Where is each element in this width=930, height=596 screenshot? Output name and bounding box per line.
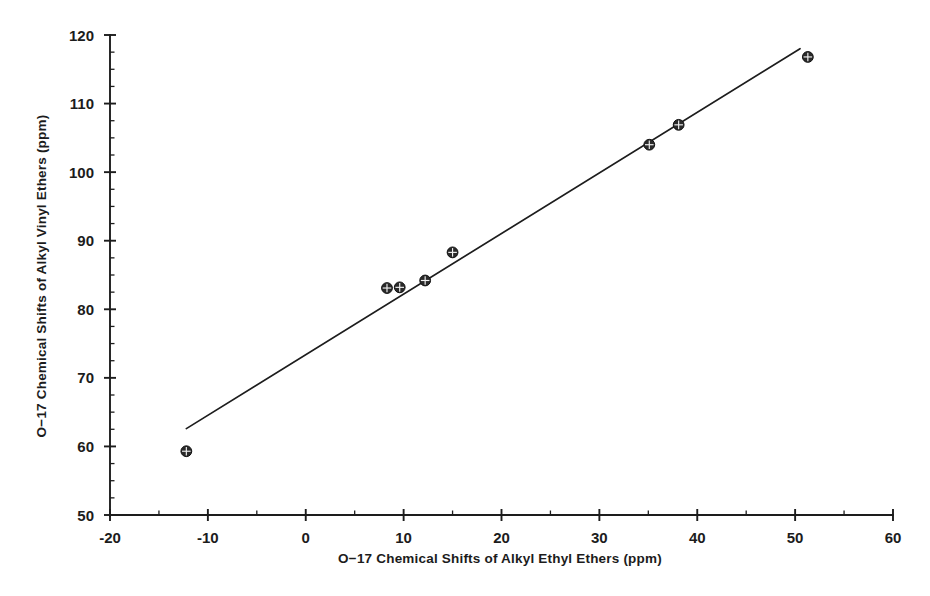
x-tick-label: 60 <box>885 529 902 546</box>
x-tick-label: 0 <box>302 529 310 546</box>
data-point <box>382 283 393 294</box>
x-tick-label: 40 <box>689 529 706 546</box>
x-tick-label: 20 <box>493 529 510 546</box>
y-tick-label: 120 <box>69 27 94 44</box>
y-tick-label: 100 <box>69 164 94 181</box>
x-tick-label: 30 <box>591 529 608 546</box>
data-point <box>447 247 458 258</box>
data-point <box>802 52 813 63</box>
x-axis-label: O−17 Chemical Shifts of Alkyl Ethyl Ethe… <box>338 551 662 566</box>
y-tick-label: 60 <box>77 438 94 455</box>
data-point <box>181 446 192 457</box>
chart-background <box>0 0 930 596</box>
y-tick-label: 80 <box>77 301 94 318</box>
y-tick-label: 110 <box>70 95 94 112</box>
x-tick-label: 10 <box>395 529 412 546</box>
data-point <box>394 282 405 293</box>
x-tick-label: -10 <box>197 529 219 546</box>
data-point <box>644 139 655 150</box>
data-point <box>673 119 684 130</box>
x-tick-label: 50 <box>787 529 804 546</box>
x-tick-label: -20 <box>99 529 121 546</box>
y-tick-label: 70 <box>77 369 94 386</box>
data-point <box>420 275 431 286</box>
scatter-chart: 5060708090100110120 O−17 Chemical Shifts… <box>0 0 930 596</box>
y-axis-label: O−17 Chemical Shifts of Alkyl Vinyl Ethe… <box>34 115 49 438</box>
y-tick-label: 50 <box>77 507 94 524</box>
y-tick-label: 90 <box>77 232 94 249</box>
